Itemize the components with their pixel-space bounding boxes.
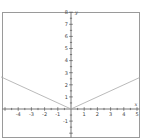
y-tick-label: 3 — [65, 70, 68, 76]
x-tick-label: 2 — [96, 111, 99, 117]
y-tick-label: 5 — [65, 45, 68, 51]
x-tick-label: -3 — [29, 111, 34, 117]
x-tick-label: -2 — [42, 111, 47, 117]
y-tick-label: 7 — [65, 21, 68, 27]
x-tick-label: -1 — [55, 111, 60, 117]
y-tick-label: 2 — [65, 82, 68, 88]
series-line — [1, 77, 140, 109]
tick-labels: -4-3-2-112345-112345678yx — [16, 9, 139, 124]
x-axis-label: x — [135, 101, 138, 107]
x-tick-label: 5 — [135, 111, 138, 117]
y-tick-label: 4 — [65, 57, 68, 63]
chart-plot: -4-3-2-112345-112345678yx — [0, 0, 142, 140]
y-tick-label: 6 — [65, 33, 68, 39]
x-tick-label: 4 — [122, 111, 125, 117]
x-tick-label: 1 — [83, 111, 86, 117]
y-axis-label: y — [74, 9, 78, 16]
y-tick-label: -1 — [63, 118, 68, 124]
axis-ticks — [5, 12, 137, 133]
data-series — [1, 77, 140, 109]
x-tick-label: 3 — [109, 111, 112, 117]
y-tick-label: 8 — [65, 9, 68, 15]
y-tick-label: 1 — [65, 94, 68, 100]
axes — [3, 13, 140, 138]
x-tick-label: -4 — [16, 111, 21, 117]
